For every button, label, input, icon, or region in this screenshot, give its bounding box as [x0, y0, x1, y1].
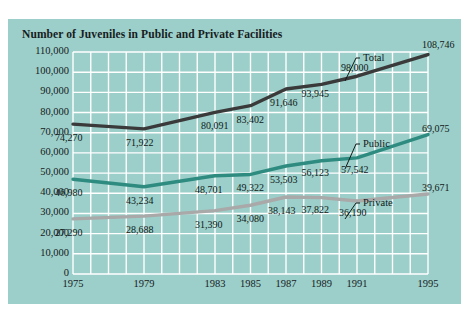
data-point-label: 74,270	[55, 132, 83, 143]
data-point-label: 53,503	[270, 174, 298, 185]
x-axis-tick-label: 1987	[266, 278, 306, 289]
y-axis-tick-label: 100,000	[8, 65, 69, 76]
data-point-label: 36,190	[339, 207, 367, 218]
data-point-label: 56,123	[302, 167, 330, 178]
data-point-label: 69,075	[422, 123, 450, 134]
data-point-label: 34,080	[237, 213, 265, 224]
data-point-label: 91,646	[270, 97, 298, 108]
data-point-label: 83,402	[237, 114, 265, 125]
x-axis-tick-label: 1975	[53, 278, 93, 289]
x-axis-tick-label: 1989	[302, 278, 342, 289]
data-point-label: 71,922	[126, 137, 154, 148]
chart-svg	[8, 19, 461, 304]
y-axis-tick-label: 30,000	[8, 206, 69, 217]
data-point-label: 48,701	[195, 184, 223, 195]
x-axis-tick-label: 1995	[408, 278, 448, 289]
y-axis-tick-label: 110,000	[8, 45, 69, 56]
data-point-label: 108,746	[422, 39, 455, 50]
series-label-total: Total	[363, 52, 384, 63]
y-axis-tick-label: 80,000	[8, 106, 69, 117]
data-point-label: 49,322	[237, 182, 265, 193]
data-point-label: 37,822	[302, 204, 330, 215]
data-point-label: 46,980	[55, 187, 83, 198]
chart-page: Number of Juveniles in Public and Privat…	[0, 0, 474, 315]
x-axis-tick-label: 1979	[124, 278, 164, 289]
x-axis-tick-label: 1983	[195, 278, 235, 289]
plot-area: 010,00020,00030,00040,00050,00060,00070,…	[8, 19, 461, 304]
series-label-public: Public	[363, 138, 390, 149]
y-axis-tick-label: 10,000	[8, 247, 69, 258]
data-point-label: 27,290	[55, 227, 83, 238]
y-axis-tick-label: 0	[8, 267, 69, 278]
y-axis-tick-label: 50,000	[8, 166, 69, 177]
data-point-label: 98,000	[341, 62, 369, 73]
x-axis-tick-label: 1985	[231, 278, 271, 289]
data-point-label: 43,234	[126, 195, 154, 206]
series-label-private: Private	[363, 197, 393, 208]
data-point-label: 57,542	[341, 164, 369, 175]
data-point-label: 80,091	[201, 120, 229, 131]
y-axis-tick-label: 90,000	[8, 85, 69, 96]
data-point-label: 39,671	[422, 182, 450, 193]
data-point-label: 93,945	[302, 88, 330, 99]
data-point-label: 28,688	[126, 224, 154, 235]
y-axis-tick-label: 60,000	[8, 146, 69, 157]
x-axis-tick-label: 1991	[337, 278, 377, 289]
data-point-label: 31,390	[195, 219, 223, 230]
data-point-label: 38,143	[268, 205, 296, 216]
chart-panel: Number of Juveniles in Public and Privat…	[8, 19, 461, 304]
